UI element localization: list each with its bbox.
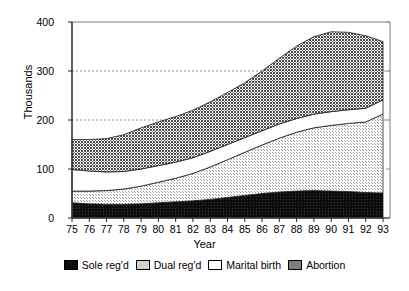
- area-bands: [72, 32, 383, 218]
- legend-swatch-marital-birth: [208, 260, 222, 270]
- legend-label-abortion: Abortion: [306, 259, 345, 271]
- legend-item-marital-birth: Marital birth: [208, 259, 281, 271]
- x-tick-label-93: 93: [372, 224, 394, 234]
- legend-swatch-sole-regd: [64, 260, 78, 270]
- legend-item-abortion: Abortion: [288, 259, 345, 271]
- legend-label-sole-regd: Sole reg'd: [82, 259, 129, 271]
- legend-label-dual-regd: Dual reg'd: [154, 259, 202, 271]
- x-axis-title: Year: [0, 238, 409, 250]
- legend-swatch-abortion: [288, 260, 302, 270]
- stacked-area-chart: Thousands 0 100 200 300 400: [0, 0, 409, 291]
- legend-label-marital-birth: Marital birth: [226, 259, 281, 271]
- legend-item-sole-regd: Sole reg'd: [64, 259, 129, 271]
- chart-legend: Sole reg'd Dual reg'd Marital birth Abor…: [0, 259, 409, 271]
- legend-swatch-dual-regd: [136, 260, 150, 270]
- legend-item-dual-regd: Dual reg'd: [136, 259, 202, 271]
